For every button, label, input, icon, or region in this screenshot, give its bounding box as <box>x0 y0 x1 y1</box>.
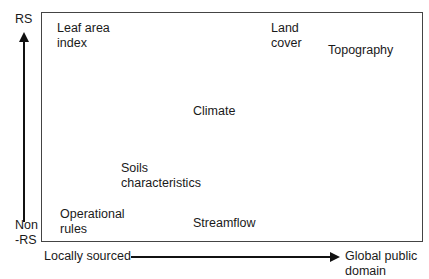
y-axis-top-label: RS <box>15 12 32 27</box>
item-operational-rules: Operational rules <box>60 207 125 237</box>
item-streamflow: Streamflow <box>193 216 256 231</box>
x-axis-left-label: Locally sourced <box>44 249 131 264</box>
item-climate: Climate <box>193 104 235 119</box>
y-axis-line <box>23 40 25 222</box>
arrow-right-icon <box>330 252 340 262</box>
item-topography: Topography <box>328 43 393 58</box>
item-land-cover: Land cover <box>271 21 302 51</box>
y-axis-bottom-label: Non -RS <box>15 218 38 248</box>
item-soils-characteristics: Soils characteristics <box>121 161 201 191</box>
item-leaf-area-index: Leaf area index <box>57 21 110 51</box>
x-axis-right-label: Global public domain <box>345 249 417 279</box>
x-axis-line <box>131 256 331 258</box>
